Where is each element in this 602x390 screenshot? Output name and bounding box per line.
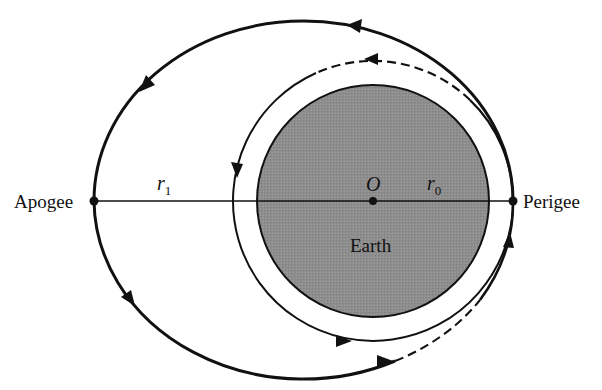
orbit-diagram: Apogee Perigee Earth O r1 r0	[0, 0, 602, 390]
r0-main: r	[427, 172, 435, 194]
arrow-icon	[364, 53, 378, 65]
arrow-icon	[377, 355, 393, 369]
r1-subscript: 1	[165, 183, 172, 198]
apogee-point	[90, 197, 99, 206]
apogee-label: Apogee	[14, 191, 73, 212]
perigee-label: Perigee	[523, 191, 580, 212]
arrow-icon	[347, 19, 362, 33]
arrow-icon	[336, 335, 352, 347]
arrow-icon	[231, 162, 243, 178]
center-label: O	[366, 173, 380, 195]
r1-label: r1	[157, 172, 171, 198]
earth-label: Earth	[350, 235, 392, 256]
center-point	[369, 197, 377, 205]
r1-main: r	[157, 172, 165, 194]
perigee-point	[509, 197, 518, 206]
r0-subscript: 0	[435, 183, 442, 198]
